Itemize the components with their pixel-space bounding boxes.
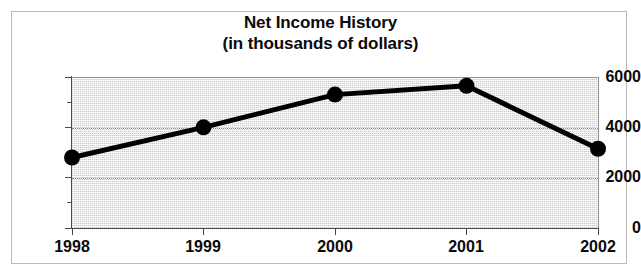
y-tick-0: [65, 228, 72, 229]
x-tick-2000: [335, 229, 336, 235]
chart-figure: Net Income History (in thousands of doll…: [0, 0, 641, 278]
y-tick-1000-minor: [67, 202, 72, 203]
x-axis-label-2000: 2000: [290, 238, 380, 256]
plot-area: [72, 77, 599, 229]
y-tick-5000-minor: [67, 102, 72, 103]
y-axis-label-6000: 6000: [579, 68, 641, 86]
y-tick-4000: [65, 127, 72, 128]
chart-title-block: Net Income History (in thousands of doll…: [0, 12, 641, 54]
gridline-4000: [72, 128, 598, 129]
x-axis-label-2002: 2002: [553, 238, 641, 256]
x-tick-1998: [72, 229, 73, 235]
gridline-2000: [72, 178, 598, 179]
x-axis-label-2001: 2001: [421, 238, 511, 256]
chart-subtitle: (in thousands of dollars): [0, 33, 641, 54]
x-tick-2001: [466, 229, 467, 235]
y-axis-label-4000: 4000: [579, 118, 641, 136]
y-axis-label-0: 0: [579, 219, 641, 237]
y-tick-6000: [65, 77, 72, 78]
chart-title: Net Income History: [0, 12, 641, 33]
x-tick-1999: [203, 229, 204, 235]
x-axis-label-1998: 1998: [27, 238, 117, 256]
y-tick-3000-minor: [67, 152, 72, 153]
x-tick-2002: [598, 229, 599, 235]
x-axis-label-1999: 1999: [158, 238, 248, 256]
y-axis-label-2000: 2000: [579, 168, 641, 186]
y-tick-2000: [65, 177, 72, 178]
